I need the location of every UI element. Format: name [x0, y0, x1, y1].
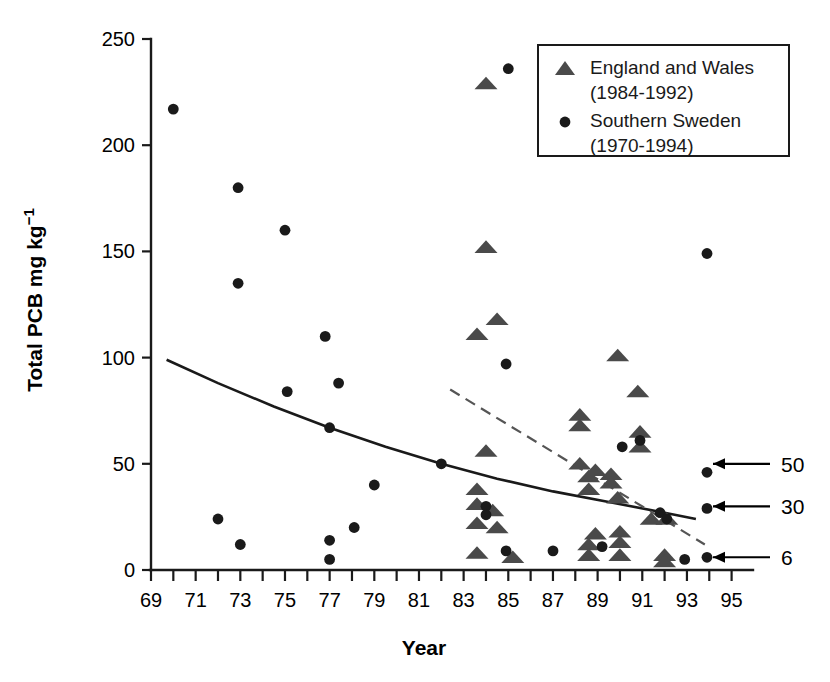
x-tick-label: 87 [542, 589, 564, 611]
x-tick-label: 71 [185, 589, 207, 611]
legend-sublabel: (1970-1994) [590, 135, 694, 156]
data-point-circle [702, 467, 713, 478]
legend-label: Southern Sweden [590, 110, 741, 131]
y-tick-label: 250 [102, 28, 135, 50]
data-point-circle [280, 225, 291, 236]
data-point-circle [548, 546, 559, 557]
data-point-circle [617, 441, 628, 452]
y-tick-label: 200 [102, 134, 135, 156]
data-point-circle [324, 554, 335, 565]
data-point-circle [481, 509, 492, 520]
y-tick-label: 50 [113, 453, 135, 475]
data-point-circle [635, 435, 646, 446]
data-point-circle [320, 331, 331, 342]
x-tick-label: 85 [497, 589, 519, 611]
data-point-circle [349, 522, 360, 533]
chart-legend: England and Wales(1984-1992)Southern Swe… [538, 45, 789, 156]
data-point-circle [282, 386, 293, 397]
x-tick-label: 69 [140, 589, 162, 611]
y-axis-title-main: Total PCB mg kg [23, 225, 46, 391]
data-point-circle [702, 503, 713, 514]
x-tick-label: 89 [586, 589, 608, 611]
data-point-circle [597, 541, 608, 552]
data-point-circle [501, 359, 512, 370]
y-axis-title-text: Total PCB mg kg−1 [20, 208, 46, 392]
x-tick-label: 95 [720, 589, 742, 611]
data-point-circle [661, 514, 672, 525]
x-tick-label: 73 [229, 589, 251, 611]
data-point-circle [233, 278, 244, 289]
data-point-circle [213, 514, 224, 525]
chart-figure: 6971737577798183858789919395 05010015020… [0, 0, 830, 682]
x-tick-label: 91 [631, 589, 653, 611]
data-point-circle [436, 458, 447, 469]
pcb-scatter-plot: 6971737577798183858789919395 05010015020… [0, 0, 830, 682]
x-tick-label: 83 [453, 589, 475, 611]
annotation-label: 30 [781, 495, 804, 518]
data-point-circle [503, 63, 514, 74]
data-point-circle [702, 248, 713, 259]
legend-sublabel: (1984-1992) [590, 82, 694, 103]
y-axis-title: Total PCB mg kg−1 [20, 208, 46, 392]
data-point-circle [679, 554, 690, 565]
data-point-circle [235, 539, 246, 550]
x-tick-label: 81 [408, 589, 430, 611]
legend-marker-circle [560, 117, 571, 128]
annotation-label: 50 [781, 453, 804, 476]
data-point-circle [501, 546, 512, 557]
x-tick-label: 77 [319, 589, 341, 611]
data-point-circle [702, 552, 713, 563]
y-tick-label: 100 [102, 347, 135, 369]
x-tick-label: 75 [274, 589, 296, 611]
legend-label: England and Wales [590, 57, 754, 78]
data-point-circle [369, 480, 380, 491]
x-axis-title: Year [402, 636, 446, 659]
y-tick-label: 150 [102, 240, 135, 262]
y-tick-label: 0 [124, 559, 135, 581]
y-axis-title-exponent: −1 [20, 208, 37, 225]
x-tick-label: 79 [363, 589, 385, 611]
annotation-label: 6 [781, 546, 793, 569]
data-point-circle [333, 378, 344, 389]
data-point-circle [233, 182, 244, 193]
x-tick-label: 93 [676, 589, 698, 611]
data-point-circle [168, 104, 179, 115]
data-point-circle [324, 535, 335, 546]
data-point-circle [324, 422, 335, 433]
